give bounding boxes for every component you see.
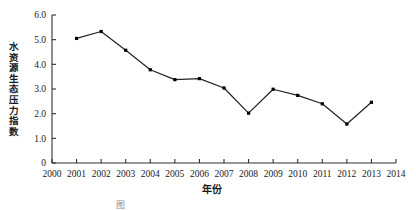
x-tick-label: 2006: [190, 169, 209, 179]
data-point-marker: [100, 30, 103, 33]
x-tick-label: 2005: [165, 169, 184, 179]
data-point-marker: [247, 112, 250, 115]
data-point-marker: [345, 122, 348, 125]
y-axis-title-char: 水: [9, 41, 19, 52]
x-tick-label: 2013: [362, 169, 381, 179]
y-axis-title-char: 数: [8, 126, 19, 137]
y-axis-title-char: 指: [9, 115, 19, 126]
x-tick-label: 2000: [43, 169, 62, 179]
y-tick-label: 5.0: [34, 35, 46, 45]
data-point-marker: [149, 68, 152, 71]
chart-figure: 01.02.03.04.05.06.0 20002001200220032004…: [0, 0, 416, 210]
x-tick-label: 2001: [67, 169, 86, 179]
y-tick-label: 0: [41, 158, 46, 168]
line-chart: 01.02.03.04.05.06.0 20002001200220032004…: [0, 0, 416, 210]
x-tick-label: 2003: [116, 169, 135, 179]
y-axis-title-char: 源: [9, 62, 19, 73]
data-point-marker: [272, 88, 275, 91]
y-tick-label: 4.0: [34, 60, 46, 70]
data-point-marker: [222, 86, 225, 89]
x-tick-label: 2002: [92, 169, 111, 179]
y-tick-label: 1.0: [34, 134, 46, 144]
data-point-marker: [296, 94, 299, 97]
x-tick-label: 2010: [288, 169, 307, 179]
data-point-marker: [370, 101, 373, 104]
data-point-marker: [198, 77, 201, 80]
y-tick-label: 6.0: [34, 10, 46, 20]
x-tick-label: 2004: [141, 169, 160, 179]
y-axis-title: 水资源生态压力指数: [8, 41, 19, 137]
x-tick-label: 2011: [313, 169, 332, 179]
x-tick-label: 2014: [387, 169, 406, 179]
y-axis-title-char: 资: [9, 52, 19, 63]
y-axis-title-char: 生: [9, 73, 19, 84]
x-tick-label: 2012: [337, 169, 356, 179]
data-point-marker: [75, 37, 78, 40]
y-axis-title-char: 力: [9, 105, 19, 116]
y-tick-label: 2.0: [34, 109, 46, 119]
data-point-marker: [173, 78, 176, 81]
x-tick-label: 2008: [239, 169, 258, 179]
x-axis-title: 年份: [202, 183, 223, 195]
x-tick-label: 2009: [264, 169, 283, 179]
y-tick-label: 3.0: [34, 84, 46, 94]
y-axis-title-char: 压: [9, 94, 19, 105]
x-tick-label: 2007: [215, 169, 234, 179]
data-point-marker: [321, 102, 324, 105]
y-axis-title-char: 态: [9, 83, 19, 94]
data-point-marker: [124, 49, 127, 52]
figure-caption: 图: [116, 200, 125, 210]
